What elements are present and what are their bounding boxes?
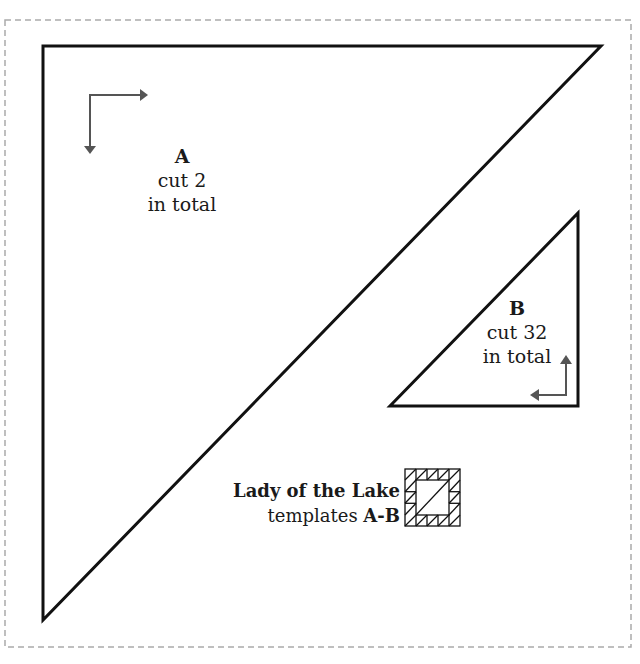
- template-a-qualifier: in total: [122, 192, 242, 216]
- caption-subtitle-range: A-B: [363, 505, 400, 526]
- template-a-label: A cut 2 in total: [122, 144, 242, 216]
- template-a-cut-count: cut 2: [122, 168, 242, 192]
- template-b-label: B cut 32 in total: [457, 296, 577, 368]
- caption-subtitle: templates A-B: [200, 503, 400, 528]
- template-b-letter: B: [457, 296, 577, 320]
- template-a-letter: A: [122, 144, 242, 168]
- template-b-qualifier: in total: [457, 344, 577, 368]
- caption-title: Lady of the Lake: [200, 478, 400, 503]
- caption-subtitle-prefix: templates: [268, 505, 364, 526]
- template-caption: Lady of the Lake templates A-B: [200, 478, 400, 528]
- lady-of-the-lake-block-icon: [405, 469, 460, 526]
- template-b-cut-count: cut 32: [457, 320, 577, 344]
